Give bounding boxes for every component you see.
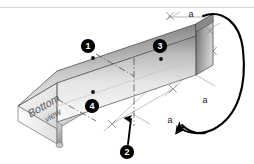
dimension-label-ground-right: a [202,95,207,105]
diagram-canvas: a a a Bottom view 1 [0,0,254,164]
tick-a-front-start [109,121,116,128]
technical-illustration: a a a Bottom view 1 [0,0,254,164]
callout-4[interactable]: 4 [85,99,99,113]
callout-2[interactable]: 2 [120,145,134,159]
callout-2-number: 2 [124,147,129,157]
callout-3-number: 3 [157,41,162,51]
callout-1-point [91,56,95,60]
tick-a-front-end [170,86,177,93]
dimension-label-ground-front: a [167,115,172,125]
callout-3-point [159,57,163,61]
callout-2-leader [128,119,131,144]
callout-3[interactable]: 3 [153,39,167,53]
callout-4-number: 4 [89,101,94,111]
callout-4-point [91,90,95,94]
callout-1-number: 1 [85,41,90,51]
callout-1[interactable]: 1 [81,39,95,53]
dimension-label-top: a [188,9,193,19]
channel-rolled-lip [56,142,63,147]
